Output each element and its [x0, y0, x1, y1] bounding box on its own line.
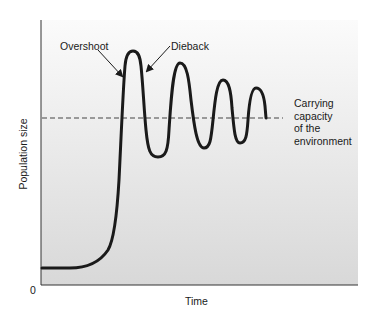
carrying-capacity-line-4: environment	[294, 135, 352, 148]
carrying-capacity-line-2: capacity	[294, 110, 352, 123]
carrying-capacity-line-1: Carrying	[294, 97, 352, 110]
plot-area	[41, 20, 358, 285]
x-axis-label: Time	[185, 295, 208, 307]
y-axis-label: Population size	[17, 109, 29, 199]
dieback-annotation: Dieback	[171, 40, 209, 52]
origin-label: 0	[30, 284, 36, 296]
carrying-capacity-annotation: Carrying capacity of the environment	[294, 97, 352, 147]
overshoot-annotation: Overshoot	[60, 40, 108, 52]
carrying-capacity-line-3: of the	[294, 122, 352, 135]
